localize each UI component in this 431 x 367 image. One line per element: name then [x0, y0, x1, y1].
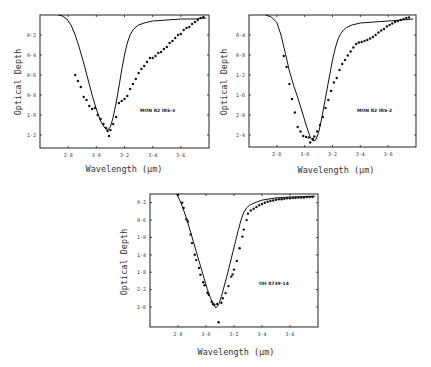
- data-point: [143, 65, 145, 67]
- plot-frame: [40, 15, 209, 148]
- data-point: [258, 204, 260, 206]
- y-tick-label: 1·0: [27, 112, 36, 118]
- y-tick-label: 0·4: [27, 52, 36, 58]
- data-point: [347, 54, 349, 56]
- data-point: [163, 48, 165, 50]
- observed-points: [283, 16, 411, 143]
- data-point: [183, 29, 185, 31]
- data-point: [333, 81, 335, 83]
- data-point: [199, 274, 201, 276]
- data-point: [106, 130, 108, 132]
- data-point: [168, 42, 170, 44]
- data-point: [146, 61, 148, 63]
- y-tick-label: 0·6: [27, 72, 36, 78]
- data-point: [316, 130, 318, 132]
- x-tick-label: 3·4: [356, 151, 365, 157]
- data-point: [191, 242, 193, 244]
- data-point: [112, 123, 114, 125]
- data-point: [140, 68, 142, 70]
- data-point: [126, 95, 128, 97]
- panel-annotation: MON R2 IRS-2: [357, 108, 392, 113]
- x-axis-ticks: 2·83·03·23·43·6: [173, 194, 294, 337]
- data-point: [185, 27, 187, 29]
- y-tick-label: 2·2: [137, 286, 146, 292]
- data-point: [97, 114, 99, 116]
- x-tick-label: 3·6: [384, 151, 393, 157]
- data-point: [245, 219, 247, 221]
- data-point: [288, 83, 290, 85]
- data-point: [264, 202, 266, 204]
- x-tick-label: 3·0: [201, 331, 210, 337]
- data-point: [177, 34, 179, 36]
- data-point: [108, 135, 110, 137]
- data-point: [300, 196, 302, 198]
- plot-frame: [150, 194, 318, 327]
- data-point: [313, 135, 315, 137]
- data-point: [309, 141, 311, 143]
- data-point: [383, 28, 385, 30]
- data-point: [297, 126, 299, 128]
- data-point: [311, 196, 313, 198]
- data-point: [283, 198, 285, 200]
- data-point: [299, 130, 301, 132]
- data-point: [308, 196, 310, 198]
- data-point: [213, 304, 215, 306]
- data-point: [203, 284, 205, 286]
- data-point: [216, 303, 218, 305]
- data-point: [135, 78, 137, 80]
- y-tick-label: 0·8: [27, 92, 36, 98]
- data-point: [160, 51, 162, 53]
- data-point: [195, 259, 197, 261]
- data-point: [83, 96, 85, 98]
- data-point: [280, 198, 282, 200]
- y-tick-label: 2·0: [236, 112, 245, 118]
- x-axis-ticks: 2·83·03·23·43·6: [272, 15, 392, 157]
- data-point: [115, 116, 117, 118]
- data-point: [185, 218, 187, 220]
- y-tick-label: 2·4: [236, 132, 245, 138]
- data-point: [297, 196, 299, 198]
- data-point: [238, 247, 240, 249]
- plot-frame: [249, 15, 416, 147]
- panel-annotation: MON R2 IRS-3: [140, 108, 175, 113]
- chart-panel-oh-0739-14: 2·83·03·23·43·6 0·20·61·01·41·82·22·6 OH…: [119, 194, 318, 357]
- data-point: [230, 275, 232, 277]
- data-point: [247, 212, 249, 214]
- x-tick-label: 2·8: [64, 152, 73, 158]
- data-point: [377, 31, 379, 33]
- data-point: [187, 220, 189, 222]
- data-point: [137, 72, 139, 74]
- data-point: [306, 196, 308, 198]
- data-point: [77, 80, 79, 82]
- data-point: [85, 99, 87, 101]
- data-point: [291, 98, 293, 100]
- data-point: [202, 16, 204, 18]
- y-axis-label: Optical Depth: [119, 229, 129, 296]
- data-point: [210, 301, 212, 303]
- y-tick-label: 0·2: [137, 199, 146, 205]
- y-axis-ticks: 0·20·40·60·81·01·2: [27, 32, 209, 138]
- data-point: [99, 118, 101, 120]
- data-point: [341, 63, 343, 65]
- data-point: [391, 22, 393, 24]
- data-point: [266, 201, 268, 203]
- data-point: [408, 16, 410, 18]
- data-point: [330, 90, 332, 92]
- data-point: [227, 285, 229, 287]
- y-axis-label: Optical Depth: [219, 49, 229, 116]
- data-point: [222, 297, 224, 299]
- data-point: [380, 29, 382, 31]
- data-point: [198, 267, 200, 269]
- data-point: [197, 19, 199, 21]
- data-point: [255, 206, 257, 208]
- x-tick-label: 3·2: [328, 151, 337, 157]
- data-point: [91, 108, 93, 110]
- model-curve: [266, 15, 414, 141]
- data-point: [397, 20, 399, 22]
- data-point: [174, 37, 176, 39]
- data-point: [74, 74, 76, 76]
- y-tick-label: 1·2: [27, 132, 36, 138]
- model-curve: [58, 15, 206, 130]
- data-point: [224, 292, 226, 294]
- y-axis-ticks: 0·40·81·21·62·02·4: [236, 32, 416, 138]
